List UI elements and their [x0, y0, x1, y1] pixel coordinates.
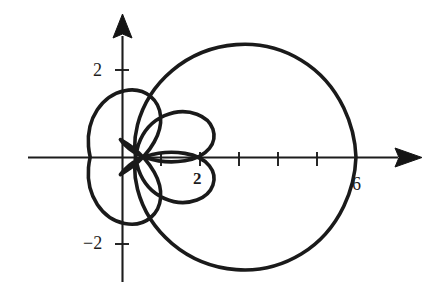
x-axis-arrow-icon — [395, 148, 422, 167]
x-axis-label-outer-six: 6 — [352, 175, 361, 193]
x-axis-label-inner-loop-two: 2 — [193, 170, 202, 187]
y-axis-arrow-icon — [113, 14, 132, 38]
y-axis-label-positive-two: 2 — [93, 61, 102, 79]
polar-curve-figure: 2 −2 2 6 — [0, 0, 433, 288]
y-axis-label-negative-two: −2 — [83, 234, 102, 252]
plot-canvas — [0, 0, 433, 288]
